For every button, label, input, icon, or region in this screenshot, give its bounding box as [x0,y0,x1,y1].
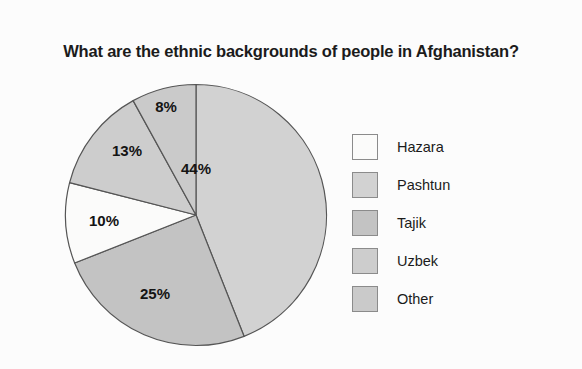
page-title: What are the ethnic backgrounds of peopl… [0,42,582,61]
chart-legend: HazaraPashtunTajikUzbekOther [352,128,552,318]
pie-slice-value-tajik: 25% [140,285,170,302]
legend-swatch-tajik [352,210,378,236]
legend-swatch-uzbek [352,248,378,274]
pie-slice-value-pashtun: 44% [181,160,211,177]
pie-chart-figure: What are the ethnic backgrounds of peopl… [0,0,582,369]
legend-swatch-other [352,286,378,312]
legend-item-hazara[interactable]: Hazara [352,128,552,166]
pie-slice-value-hazara: 10% [89,212,119,229]
legend-label-other: Other [397,291,433,307]
legend-label-hazara: Hazara [397,139,444,155]
legend-label-uzbek: Uzbek [397,253,438,269]
pie-chart-plot-area: 44%25%10%13%8% [64,83,328,347]
legend-swatch-pashtun [352,172,378,198]
legend-item-uzbek[interactable]: Uzbek [352,242,552,280]
legend-label-pashtun: Pashtun [397,177,450,193]
legend-item-tajik[interactable]: Tajik [352,204,552,242]
legend-swatch-hazara [352,134,378,160]
pie-slice-value-other: 8% [155,98,177,115]
legend-label-tajik: Tajik [397,215,426,231]
pie-chart-svg: 44%25%10%13%8% [64,83,328,347]
pie-slice-value-uzbek: 13% [112,142,142,159]
legend-item-other[interactable]: Other [352,280,552,318]
legend-item-pashtun[interactable]: Pashtun [352,166,552,204]
